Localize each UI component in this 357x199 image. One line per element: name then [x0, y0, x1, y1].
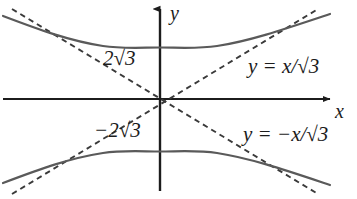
- hyperbola-figure: y x 2√3 −2√3 y = x/√3 y = −x/√3: [0, 0, 357, 199]
- hyperbola-upper-branch: [3, 14, 330, 48]
- hyperbola-lower-branch: [3, 151, 330, 185]
- x-axis-label: x: [335, 101, 344, 121]
- y-intercept-negative-label: −2√3: [94, 120, 141, 141]
- hyperbola-plot-canvas: [0, 0, 357, 199]
- y-axis-label: y: [170, 3, 179, 23]
- asymptote-negative-label: y = −x/√3: [243, 124, 328, 145]
- y-intercept-positive-label: 2√3: [103, 48, 136, 69]
- asymptote-positive-label: y = x/√3: [248, 56, 319, 77]
